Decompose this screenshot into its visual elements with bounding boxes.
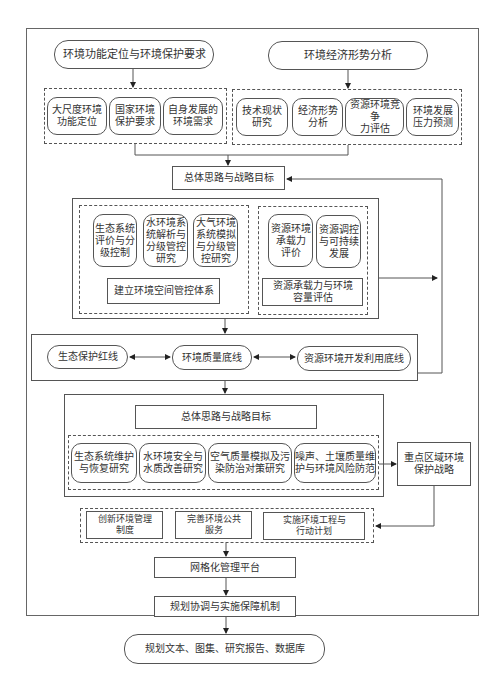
item-air-env: 大气环境 系统模拟 与分级管 控研究 [193, 214, 238, 267]
item-mgmt-innovation: 创新环境管理 制度 [86, 511, 163, 539]
outputs-pill: 规划文本、图集、研究报告、数据库 [124, 634, 325, 664]
strategy-goal-box-2: 总体思路与战略目标 [135, 405, 317, 429]
item-tech-status: 技术现状 研究 [236, 98, 288, 136]
item-capacity-eval: 资源环境 承载力 评价 [268, 214, 313, 267]
eco-redline: 生态保护红线 [47, 345, 128, 369]
item-water-safety: 水环境安全与 水质改善研究 [139, 443, 206, 483]
item-national-protection: 国家环境 保护要求 [109, 97, 161, 135]
spatial-system-box: 建立环境空间管控体系 [107, 278, 220, 304]
header-env-function: 环境功能定位与环境保护要求 [54, 40, 214, 69]
item-large-scale-function: 大尺度环境 功能定位 [47, 97, 107, 135]
grid-platform-box: 网格化管理平台 [154, 557, 296, 578]
item-air-quality: 空气质量模拟及污 染防治对策研究 [208, 443, 292, 483]
item-water-env: 水环境系 统解析与 分级管控 研究 [143, 214, 188, 267]
item-ecosystem-eval: 生态系统 评价与分 级控制 [93, 214, 137, 267]
item-pressure-forecast: 环境发展 压力预测 [406, 98, 459, 136]
item-engineering-plan: 实施环境工程与 行动计划 [263, 512, 365, 540]
resource-use-baseline: 资源环境开发利用底线 [297, 346, 411, 371]
item-economy-analysis: 经济形势 分析 [292, 98, 343, 136]
key-region-box: 重点区域环境 保护战略 [397, 442, 471, 486]
item-resource-regulation: 资源调控 与可持续 发展 [316, 215, 361, 268]
item-public-service: 完善环境公共 服务 [175, 511, 252, 539]
capacity-eval-box: 资源承载力与环境 容量评估 [262, 278, 363, 306]
item-ecosystem-restore: 生态系统维护 与恢复研究 [71, 443, 137, 483]
item-competitiveness: 资源环境竞争 力评估 [345, 98, 404, 136]
item-self-development: 自身发展的 环境需求 [163, 97, 223, 135]
env-quality-baseline: 环境质量底线 [172, 345, 252, 370]
mechanism-box: 规划协调与实施保障机制 [154, 596, 296, 617]
strategy-goal-box-1: 总体思路与战略目标 [172, 166, 285, 190]
header-env-economy: 环境经济形势分析 [268, 41, 428, 70]
item-noise-soil: 噪声、土壤质量维 护与环境风险防范 [294, 443, 376, 483]
